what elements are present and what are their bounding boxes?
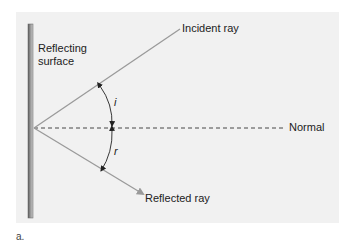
angle-i-arc <box>100 86 112 126</box>
reflecting-surface <box>28 24 33 218</box>
surface-label-line1: Reflecting <box>38 42 87 55</box>
angle-r-arc <box>101 130 112 171</box>
panel-label: a. <box>16 230 24 243</box>
normal-label: Normal <box>289 121 324 134</box>
reflected-ray-label: Reflected ray <box>145 192 210 205</box>
reflected-ray <box>34 128 143 194</box>
angle-i-label: i <box>114 96 116 109</box>
angle-r-label: r <box>114 145 118 158</box>
surface-label-line2: surface <box>38 55 74 68</box>
incident-ray-label: Incident ray <box>182 22 239 35</box>
